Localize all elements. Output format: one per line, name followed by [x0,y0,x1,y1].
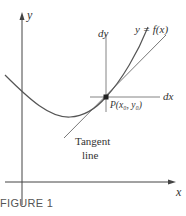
figure-caption: FIGURE 1 [0,197,53,209]
dy-label: dy [98,27,108,39]
y-axis-arrow-icon [20,12,25,20]
point-p-marker [104,95,109,100]
figure-differential-diagram: y x y = f(x) dy dx P(x₀, y₀) Tangent lin… [0,0,186,216]
x-axis-arrow-icon [168,180,176,185]
y-axis [20,12,25,205]
tangent-label-line2: line [82,149,99,161]
x-axis-label: x [176,185,181,200]
tangent-label-line1: Tangent [75,135,110,147]
dx-label: dx [163,90,173,102]
y-axis-label: y [27,8,32,23]
x-axis [5,180,176,185]
curve-label: y = f(x) [135,23,168,35]
point-label: P(x₀, y₀) [110,100,142,110]
